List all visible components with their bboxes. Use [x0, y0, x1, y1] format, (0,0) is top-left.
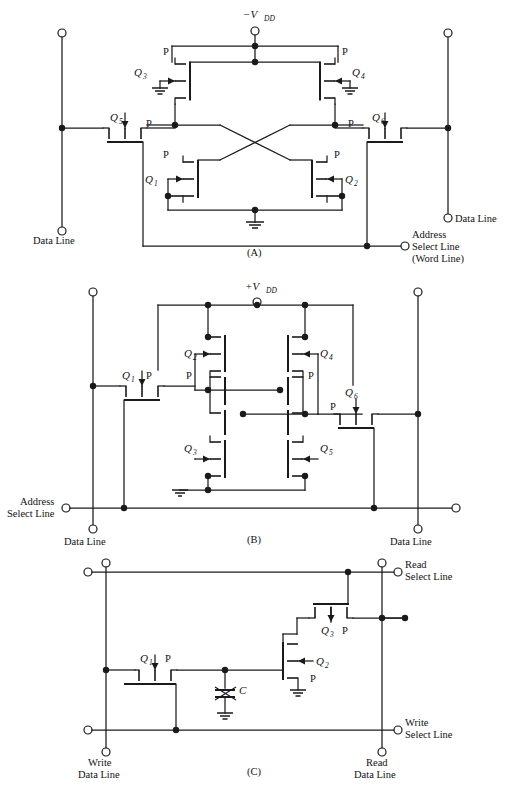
- address-label-a: Address: [412, 229, 446, 240]
- capacitor-label-c: C: [239, 684, 247, 696]
- panel-a: Q 3 P Q 4 P: [33, 8, 497, 265]
- read-select-right-terminal-c[interactable]: [394, 568, 402, 576]
- label-q3-b: Q: [184, 442, 192, 454]
- read-data-label-1-c: Read: [366, 757, 388, 768]
- label-q3-sub-c: 3: [329, 630, 334, 639]
- transistor-q3[interactable]: [152, 58, 190, 104]
- label-q1-c: Q: [140, 652, 148, 664]
- label-q3-c: Q: [321, 624, 329, 636]
- vdd-sub-a: DD: [263, 14, 275, 23]
- read-label-c: Read: [405, 559, 427, 570]
- write-select-left-terminal-c[interactable]: [84, 726, 92, 734]
- data-line-left-label-a: Data Line: [33, 235, 75, 246]
- channel-marker-p: P: [308, 370, 314, 381]
- transistor-q5-b[interactable]: [288, 436, 318, 490]
- label-q2-c: Q: [316, 655, 324, 667]
- transistor-q6[interactable]: [363, 113, 407, 142]
- vdd-label-b: +V: [245, 280, 260, 292]
- label-q6-sub-b: 6: [354, 392, 358, 401]
- data-line-left-top-terminal-a[interactable]: [58, 29, 66, 37]
- label-q1-a: Q: [145, 173, 153, 185]
- data-line-left-bottom-terminal-a[interactable]: [58, 227, 66, 235]
- label-q4-b: Q: [320, 347, 328, 359]
- channel-marker-p: P: [348, 118, 354, 129]
- transistor-mid-left-b[interactable]: [210, 377, 225, 435]
- panel-caption-b: (B): [247, 534, 262, 546]
- label-q4-a: Q: [352, 66, 360, 78]
- read-select-left-terminal-c[interactable]: [84, 568, 92, 576]
- label-q4-sub-b: 4: [329, 353, 333, 362]
- channel-marker-p: P: [163, 149, 169, 160]
- data-line-left-label-b: Data Line: [64, 536, 106, 547]
- data-line-right-label-a: Data Line: [455, 213, 497, 224]
- label-q3-sub-a: 3: [142, 72, 147, 81]
- channel-marker-p: P: [186, 370, 192, 381]
- address-select-terminal-b[interactable]: [62, 504, 70, 512]
- transistor-q1[interactable]: [168, 156, 198, 202]
- label-q6-sub-a: 6: [381, 117, 385, 126]
- channel-marker-p: P: [330, 401, 336, 412]
- channel-marker-p: P: [334, 149, 340, 160]
- select-line-label-a: Select Line: [412, 241, 460, 252]
- channel-marker-p: P: [342, 625, 348, 636]
- transistor-q2[interactable]: [312, 156, 342, 202]
- write-select-right-terminal-c[interactable]: [394, 726, 402, 734]
- data-line-left-bottom-terminal-b[interactable]: [89, 525, 97, 533]
- junction: [205, 487, 211, 493]
- label-q3-a: Q: [134, 66, 142, 78]
- junction: [302, 334, 308, 340]
- transistor-q3-c[interactable]: [309, 604, 353, 622]
- data-line-right-bottom-terminal-b[interactable]: [414, 525, 422, 533]
- vdd-terminal-a[interactable]: [251, 27, 259, 35]
- transistor-mid-right-b[interactable]: [288, 377, 303, 435]
- read-data-label-2-c: Data Line: [354, 769, 396, 780]
- channel-marker-p: P: [165, 653, 171, 664]
- write-data-line-bottom-terminal-c[interactable]: [102, 748, 110, 756]
- label-q1-sub-b: 1: [131, 375, 135, 384]
- transistor-q6-b[interactable]: [334, 399, 378, 428]
- junction: [364, 243, 370, 249]
- data-line-right-top-terminal-b[interactable]: [414, 288, 422, 296]
- transistor-q2-b[interactable]: [195, 334, 225, 377]
- word-line-label-a: (Word Line): [412, 253, 464, 265]
- write-data-label-1-c: Write: [88, 757, 112, 768]
- label-q3-sub-b: 3: [192, 448, 197, 457]
- write-data-label-2-c: Data Line: [78, 769, 120, 780]
- panel-caption-a: (A): [247, 247, 262, 259]
- panel-c: Read Select Line Q 3 P: [78, 559, 453, 780]
- junction: [205, 334, 211, 340]
- panel-b: +V DD Q 2 P: [7, 280, 460, 547]
- channel-marker-p: P: [146, 370, 152, 381]
- label-q1-sub-c: 1: [149, 658, 153, 667]
- transistor-q2-c[interactable]: [283, 642, 313, 690]
- write-label-c: Write: [405, 717, 429, 728]
- circuit-diagram: Q 3 P Q 4 P: [0, 0, 510, 791]
- address-select-terminal-b-right[interactable]: [452, 504, 460, 512]
- label-q2-sub-c: 2: [325, 661, 329, 670]
- label-q1-b: Q: [122, 369, 130, 381]
- channel-marker-p: P: [342, 46, 348, 57]
- data-line-right-label-b: Data Line: [390, 536, 432, 547]
- transistor-q3-b[interactable]: [195, 436, 225, 490]
- vdd-sub-b: DD: [265, 286, 277, 295]
- channel-marker-p: P: [163, 46, 169, 57]
- read-data-line-top-terminal-c[interactable]: [378, 559, 386, 567]
- data-line-left-top-terminal-b[interactable]: [89, 288, 97, 296]
- junction: [277, 387, 283, 393]
- label-q5-sub-b: 5: [329, 448, 333, 457]
- data-line-right-top-terminal-a[interactable]: [444, 29, 452, 37]
- transistor-q4[interactable]: [320, 58, 358, 104]
- figure-root: Q 3 P Q 4 P: [0, 0, 510, 791]
- address-select-terminal-a[interactable]: [401, 242, 409, 250]
- label-q2-a: Q: [345, 173, 353, 185]
- channel-marker-p: P: [310, 673, 316, 684]
- read-data-line-bottom-terminal-c[interactable]: [378, 748, 386, 756]
- panel-caption-c: (C): [247, 766, 262, 778]
- label-q6-a: Q: [372, 111, 380, 123]
- data-line-right-bottom-terminal-a[interactable]: [444, 214, 452, 222]
- write-data-line-top-terminal-c[interactable]: [102, 559, 110, 567]
- label-q4-sub-a: 4: [361, 72, 365, 81]
- write-select-line-label-c: Select Line: [405, 729, 453, 740]
- label-q2-b: Q: [184, 347, 192, 359]
- junction: [254, 302, 260, 308]
